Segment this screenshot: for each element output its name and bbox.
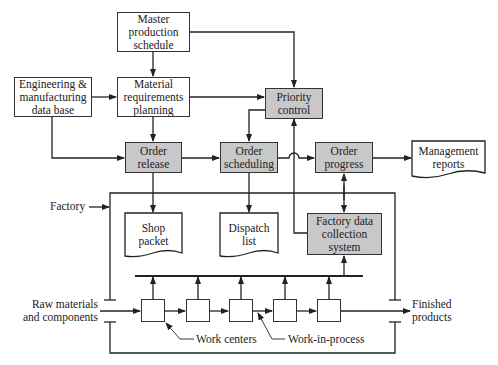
raw-materials-label: Raw materials and components: [18, 298, 98, 324]
factory-label: Factory: [50, 200, 85, 213]
order-release-box: Order release: [125, 142, 182, 173]
work-center-2: [186, 299, 210, 322]
order-progress-box: Order progress: [315, 142, 373, 173]
material-requirements-planning-box: Material requirements planning: [117, 77, 190, 117]
priority-control-box: Priority control: [265, 88, 323, 119]
work-centers-label: Work centers: [196, 333, 257, 346]
dispatch-list-document: Dispatch list: [220, 222, 278, 248]
shop-packet-document: Shop packet: [125, 222, 182, 248]
engineering-database-box: Engineering & manufacturing data base: [14, 77, 92, 117]
management-reports-document: Management reports: [412, 145, 485, 171]
finished-products-label: Finished products: [412, 298, 452, 324]
order-scheduling-box: Order scheduling: [220, 142, 278, 173]
work-center-4: [273, 299, 297, 322]
work-center-1: [141, 299, 165, 322]
work-center-5: [317, 299, 341, 322]
work-in-process-label: Work-in-process: [288, 333, 364, 346]
master-production-schedule-box: Master production schedule: [117, 12, 190, 52]
work-center-3: [229, 299, 253, 322]
factory-data-collection-box: Factory data collection system: [307, 213, 382, 255]
